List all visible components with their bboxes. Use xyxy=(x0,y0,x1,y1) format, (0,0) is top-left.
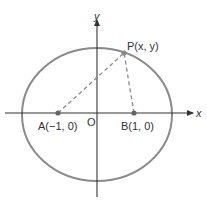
ellipse-diagram: y x O A(−1, 0) B(1, 0) P(x, y) xyxy=(0,0,207,208)
point-b-label: B(1, 0) xyxy=(121,120,154,132)
point-p xyxy=(121,50,126,55)
point-a-label: A(−1, 0) xyxy=(38,120,77,132)
point-a xyxy=(55,110,60,115)
x-axis-label: x xyxy=(195,107,202,119)
segment-bp xyxy=(124,53,134,113)
y-axis-label: y xyxy=(93,10,101,22)
origin-label: O xyxy=(87,116,96,128)
point-p-label: P(x, y) xyxy=(127,40,159,52)
segment-ap xyxy=(58,53,124,113)
point-b xyxy=(131,110,136,115)
